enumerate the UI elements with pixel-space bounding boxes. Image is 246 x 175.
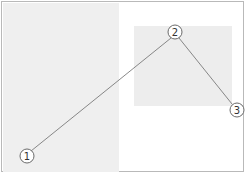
marker-2: 2 [168,25,182,39]
connector-2-3 [179,38,232,104]
connector-1-2 [31,38,171,151]
marker-1-label: 1 [24,151,30,162]
connector-overlay: 1 2 3 [0,0,246,175]
marker-2-label: 2 [172,27,178,38]
marker-3-label: 3 [234,105,240,116]
marker-1: 1 [20,149,34,163]
marker-3: 3 [230,103,244,117]
